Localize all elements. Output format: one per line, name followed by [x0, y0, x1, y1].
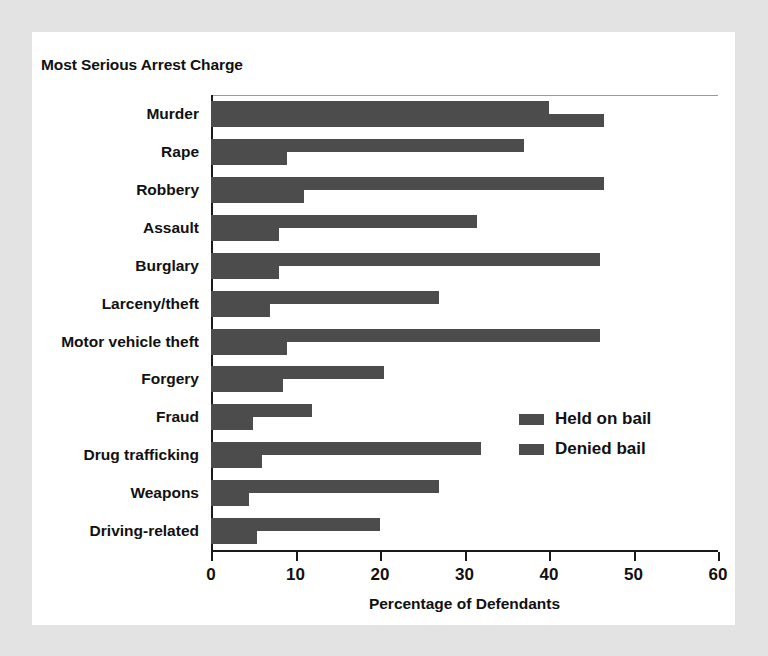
category-label: Murder — [146, 105, 199, 123]
category-label: Rape — [161, 143, 199, 161]
x-tick-label: 10 — [286, 565, 305, 585]
legend-label: Denied bail — [555, 439, 646, 459]
category-label: Forgery — [141, 370, 199, 388]
bar-held-on-bail — [211, 177, 604, 190]
bar-held-on-bail — [211, 518, 380, 531]
bar-row: Motor vehicle theft — [211, 329, 718, 355]
bar-row: Assault — [211, 215, 718, 241]
bar-held-on-bail — [211, 442, 481, 455]
bar-row: Robbery — [211, 177, 718, 203]
bar-held-on-bail — [211, 215, 477, 228]
x-tick-label: 0 — [206, 565, 215, 585]
bar-held-on-bail — [211, 139, 524, 152]
bar-held-on-bail — [211, 480, 439, 493]
bar-row: Larceny/theft — [211, 291, 718, 317]
x-tick-label: 20 — [371, 565, 390, 585]
plot-top-rule — [211, 95, 718, 96]
bar-denied-bail — [211, 152, 287, 165]
bar-denied-bail — [211, 493, 249, 506]
x-tick-mark — [211, 552, 213, 561]
chart-card: Most Serious Arrest Charge 0102030405060… — [32, 32, 735, 625]
category-label: Driving-related — [90, 522, 199, 540]
x-tick-mark — [380, 552, 382, 561]
bar-row: Weapons — [211, 480, 718, 506]
category-label: Weapons — [130, 484, 199, 502]
bar-held-on-bail — [211, 291, 439, 304]
x-axis-title: Percentage of Defendants — [211, 595, 718, 613]
x-tick-label: 30 — [455, 565, 474, 585]
bar-denied-bail — [211, 304, 270, 317]
bar-row: Murder — [211, 101, 718, 127]
bar-denied-bail — [211, 342, 287, 355]
legend-swatch-icon — [519, 444, 544, 455]
bar-row: Forgery — [211, 366, 718, 392]
bar-denied-bail — [211, 455, 262, 468]
bar-denied-bail — [211, 266, 279, 279]
legend-entry: Held on bail — [519, 404, 651, 434]
x-tick-mark — [296, 552, 298, 561]
x-tick-label: 40 — [540, 565, 559, 585]
x-tick-label: 60 — [709, 565, 728, 585]
x-tick-mark — [549, 552, 551, 561]
category-label: Fraud — [156, 408, 199, 426]
category-label: Motor vehicle theft — [61, 333, 199, 351]
x-tick-label: 50 — [624, 565, 643, 585]
bar-denied-bail — [211, 417, 253, 430]
chart-legend: Held on bailDenied bail — [519, 404, 651, 464]
bar-denied-bail — [211, 379, 283, 392]
bar-denied-bail — [211, 190, 304, 203]
category-label: Robbery — [136, 181, 199, 199]
bar-held-on-bail — [211, 404, 312, 417]
bar-denied-bail — [211, 114, 604, 127]
bar-held-on-bail — [211, 329, 600, 342]
category-label: Assault — [143, 219, 199, 237]
bar-row: Burglary — [211, 253, 718, 279]
bar-denied-bail — [211, 228, 279, 241]
bar-held-on-bail — [211, 101, 549, 114]
bar-row: Driving-related — [211, 518, 718, 544]
category-label: Larceny/theft — [102, 295, 199, 313]
bar-held-on-bail — [211, 366, 384, 379]
category-label: Burglary — [135, 257, 199, 275]
bar-held-on-bail — [211, 253, 600, 266]
legend-entry: Denied bail — [519, 434, 651, 464]
category-label: Drug trafficking — [84, 446, 199, 464]
chart-title: Most Serious Arrest Charge — [41, 56, 243, 74]
x-tick-mark — [465, 552, 467, 561]
legend-label: Held on bail — [555, 409, 651, 429]
x-tick-mark — [718, 552, 720, 561]
bar-denied-bail — [211, 531, 257, 544]
x-tick-mark — [634, 552, 636, 561]
bar-row: Rape — [211, 139, 718, 165]
legend-swatch-icon — [519, 414, 544, 425]
plot-area: 0102030405060 MurderRapeRobberyAssaultBu… — [211, 95, 718, 550]
